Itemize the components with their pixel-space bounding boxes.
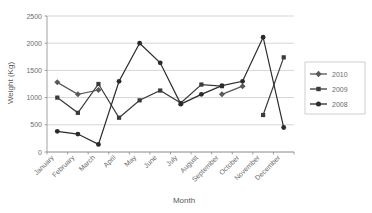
data-point-marker	[261, 113, 265, 117]
x-category-label: July	[165, 153, 180, 168]
data-point-marker	[199, 82, 203, 86]
series-line	[222, 86, 243, 94]
chart-legend: 201020092008	[305, 62, 365, 114]
y-tick-label: 1000	[26, 94, 42, 101]
data-point-marker	[55, 129, 60, 134]
data-point-marker	[158, 60, 163, 65]
data-point-marker	[76, 111, 80, 115]
data-point-marker	[75, 91, 81, 97]
data-point-marker	[219, 91, 225, 97]
data-point-marker	[261, 35, 266, 40]
axis-lines	[45, 16, 295, 152]
data-point-marker	[199, 92, 204, 97]
x-category-label: February	[51, 153, 77, 179]
legend-label: 2008	[332, 101, 348, 108]
x-category-label: March	[77, 154, 96, 173]
data-point-marker	[96, 82, 100, 86]
y-tick-label: 0	[38, 149, 42, 156]
data-series	[54, 35, 286, 147]
data-point-marker	[158, 88, 162, 92]
y-tick-label: 500	[30, 121, 42, 128]
y-tick-label: 1500	[26, 67, 42, 74]
data-point-marker	[178, 102, 183, 107]
data-point-marker	[137, 41, 142, 46]
chart-container: 05001000150020002500 JanuaryFebruaryMarc…	[0, 0, 372, 213]
data-point-marker	[54, 79, 60, 85]
series-line	[263, 57, 284, 115]
data-point-marker	[316, 87, 320, 91]
data-point-marker	[220, 83, 225, 88]
x-category-label: June	[142, 154, 158, 170]
data-point-marker	[240, 83, 246, 89]
data-point-marker	[316, 101, 321, 106]
legend-label: 2009	[332, 86, 348, 93]
y-axis-tick-labels: 05001000150020002500	[26, 13, 42, 156]
data-point-marker	[55, 96, 59, 100]
data-point-marker	[117, 79, 122, 84]
series-2009	[55, 55, 286, 120]
y-tick-label: 2500	[26, 13, 42, 20]
y-tick-label: 2000	[26, 40, 42, 47]
series-2008	[55, 35, 286, 147]
data-point-marker	[96, 142, 101, 147]
series-line	[57, 37, 283, 144]
data-point-marker	[75, 132, 80, 137]
data-point-marker	[281, 125, 286, 130]
data-point-marker	[117, 116, 121, 120]
x-axis-title: Month	[173, 196, 195, 205]
data-point-marker	[240, 79, 245, 84]
data-point-marker	[138, 98, 142, 102]
line-chart: 05001000150020002500 JanuaryFebruaryMarc…	[0, 0, 372, 213]
data-point-marker	[282, 55, 286, 59]
x-category-label: April	[102, 153, 118, 169]
y-axis-title: Weight (Kg)	[6, 62, 15, 104]
x-axis-category-labels: JanuaryFebruaryMarchAprilMayJuneJulyAugu…	[32, 153, 281, 183]
x-category-label: May	[123, 153, 138, 168]
legend-label: 2010	[332, 71, 348, 78]
